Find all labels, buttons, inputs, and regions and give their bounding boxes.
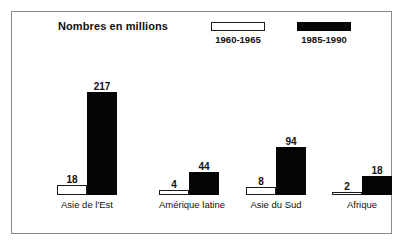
bar-light-1: 4	[159, 190, 189, 195]
bar-value-light-3: 2	[344, 181, 350, 192]
bars-row: 4 44	[159, 35, 219, 195]
bar-dark-0: 217	[87, 92, 117, 195]
group-label-1: Amérique latine	[159, 199, 219, 210]
bar-value-light-1: 4	[171, 179, 177, 190]
bars-row: 2 18	[332, 35, 392, 195]
bars-row: 18 217	[57, 35, 117, 195]
bar-dark-1: 44	[189, 172, 219, 195]
group-label-2: Asie du Sud	[246, 199, 306, 210]
bar-light-0: 18	[57, 185, 87, 195]
bar-group-asie-du-sud: 8 94 Asie du Sud	[246, 35, 306, 210]
bar-group-amerique-latine: 4 44 Amérique latine	[159, 35, 219, 210]
bar-value-dark-1: 44	[198, 161, 209, 172]
plot-area: 18 217 Asie de l'Est 4 44 Amérique latin…	[12, 12, 391, 233]
bar-value-light-2: 8	[258, 176, 264, 187]
bar-value-light-0: 18	[66, 174, 77, 185]
chart-frame: Nombres en millions 1960-1965 1985-1990 …	[11, 11, 392, 234]
bar-light-3: 2	[332, 192, 362, 195]
bars-row: 8 94	[246, 35, 306, 195]
bar-value-dark-0: 217	[94, 81, 111, 92]
group-label-3: Afrique	[332, 199, 392, 210]
group-label-0: Asie de l'Est	[57, 199, 117, 210]
bar-group-afrique: 2 18 Afrique	[332, 35, 392, 210]
bar-light-2: 8	[246, 187, 276, 195]
bar-group-asie-de-l-est: 18 217 Asie de l'Est	[57, 35, 117, 210]
bar-value-dark-3: 18	[371, 165, 382, 176]
bar-value-dark-2: 94	[285, 136, 296, 147]
bar-dark-2: 94	[276, 147, 306, 195]
bar-dark-3: 18	[362, 176, 392, 195]
